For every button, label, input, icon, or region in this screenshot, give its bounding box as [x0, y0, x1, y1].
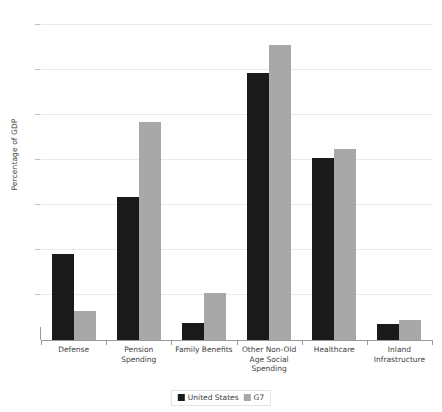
plot-area: 02468101214: [41, 24, 432, 340]
y-axis-tick-mark: [35, 249, 40, 250]
y-axis-tick-mark: [35, 204, 40, 205]
x-axis-label: Other Non-Old Age Social Spending: [237, 345, 302, 374]
x-axis-label: Defense: [41, 345, 106, 374]
legend-swatch-united-states: [178, 394, 185, 401]
legend-label-g7: G7: [254, 393, 265, 402]
x-axis-label: Pension Spending: [106, 345, 171, 374]
bar: [377, 324, 399, 340]
bar: [269, 45, 291, 340]
x-axis-tick-mark: [432, 340, 433, 345]
bar: [312, 158, 334, 340]
y-axis-tick-mark: [35, 294, 40, 295]
bar: [247, 73, 269, 340]
bar: [139, 122, 161, 340]
x-axis-labels: DefensePension SpendingFamily BenefitsOt…: [41, 345, 432, 374]
legend-item-united-states: United States: [178, 393, 239, 402]
legend-swatch-g7: [244, 394, 251, 401]
bar-group: [237, 24, 302, 340]
bar-group: [41, 24, 106, 340]
y-axis-tick-mark: [35, 114, 40, 115]
y-axis-title: Percentage of GDP: [10, 85, 19, 225]
bar: [182, 323, 204, 340]
bar-chart: Percentage of GDP 02468101214 DefensePen…: [0, 0, 442, 412]
bar: [204, 293, 226, 340]
bar: [74, 311, 96, 340]
bar-group: [106, 24, 171, 340]
bar: [334, 149, 356, 340]
legend-item-g7: G7: [244, 393, 265, 402]
bar-groups: [41, 24, 432, 340]
y-axis-tick-mark: [35, 24, 40, 25]
bar-group: [367, 24, 432, 340]
bar-group: [171, 24, 236, 340]
x-axis-label: Inland Infrastructure: [367, 345, 432, 374]
y-axis-tick-mark: [35, 159, 40, 160]
bar: [117, 197, 139, 340]
x-axis-label: Healthcare: [302, 345, 367, 374]
x-axis-label: Family Benefits: [171, 345, 236, 374]
bar: [399, 320, 421, 340]
bar: [52, 254, 74, 340]
y-axis-tick-mark: [35, 69, 40, 70]
chart-legend: United States G7: [171, 390, 271, 406]
legend-label-united-states: United States: [188, 393, 239, 402]
bar-group: [302, 24, 367, 340]
